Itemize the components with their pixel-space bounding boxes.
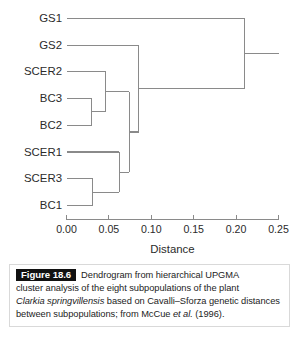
x-tick-label-5: 0.25 [268, 223, 289, 235]
caption-text-2: cluster analysis of the eight subpopulat… [16, 283, 239, 293]
caption-species-name: Clarkia springvillensis [16, 296, 104, 306]
caption-text-3: based on Cavalli–Sforza genetic distance… [107, 296, 280, 306]
dendrogram-plot: GS1GS2SCER2BC3BC2SCER1SCER3BC1 0.000.050… [0, 0, 303, 262]
x-axis-line-with-ticks [67, 215, 279, 220]
leaf-label-gs1: GS1 [39, 12, 62, 24]
caption-etal: et al. [173, 309, 193, 319]
x-axis [67, 215, 279, 220]
x-tick-label-4: 0.20 [226, 223, 247, 235]
leaf-label-gs2: GS2 [39, 39, 62, 51]
caption-text-1: Dendrogram from hierarchical UPGMA [81, 270, 239, 280]
x-tick-label-group: 0.000.050.100.150.200.25 [56, 223, 289, 235]
leaf-label-bc3: BC3 [40, 92, 62, 104]
figure-18-6: GS1GS2SCER2BC3BC2SCER1SCER3BC1 0.000.050… [0, 0, 303, 343]
leaf-label-scer2: SCER2 [24, 65, 62, 77]
caption-line-4: between subpopulations; from McCue et al… [16, 308, 283, 321]
figure-number-tag: Figure 18.6 [16, 269, 76, 281]
leaf-label-bc2: BC2 [40, 119, 62, 131]
x-tick-label-2: 0.10 [141, 223, 162, 235]
x-tick-label-1: 0.05 [99, 223, 120, 235]
leaf-label-scer1: SCER1 [24, 146, 62, 158]
x-tick-label-0: 0.00 [56, 223, 77, 235]
caption-text-5: (1996). [195, 309, 224, 319]
leaf-label-scer3: SCER3 [24, 172, 62, 184]
figure-caption-box: Figure 18.6Dendrogram from hierarchical … [9, 264, 290, 327]
caption-line-2: cluster analysis of the eight subpopulat… [16, 282, 283, 295]
leaf-label-bc1: BC1 [40, 199, 62, 211]
caption-line-1: Figure 18.6Dendrogram from hierarchical … [16, 269, 283, 282]
x-axis-title: Distance [150, 243, 194, 255]
caption-text-4: between subpopulations; from McCue [16, 309, 170, 319]
x-tick-label-3: 0.15 [183, 223, 204, 235]
dendrogram-svg: GS1GS2SCER2BC3BC2SCER1SCER3BC1 0.000.050… [0, 0, 303, 262]
branch-group [67, 19, 279, 206]
leaf-label-group: GS1GS2SCER2BC3BC2SCER1SCER3BC1 [24, 12, 62, 211]
caption-line-3: Clarkia springvillensis based on Cavalli… [16, 295, 283, 308]
